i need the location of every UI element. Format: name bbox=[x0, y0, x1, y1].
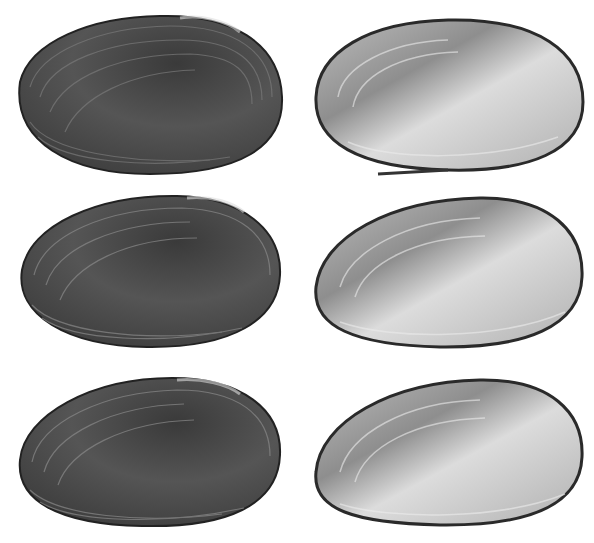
shell-exterior-row1 bbox=[10, 12, 285, 177]
shell-exterior-row2 bbox=[12, 190, 284, 350]
shell-interior-row2 bbox=[310, 192, 588, 352]
shell-interior-row1 bbox=[308, 12, 588, 177]
shell-exterior-row3 bbox=[12, 370, 284, 530]
shell-interior-row3 bbox=[310, 372, 588, 530]
